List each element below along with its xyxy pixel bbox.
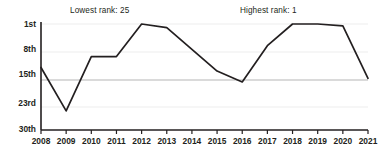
x-axis-tick-label: 2008 xyxy=(32,137,51,145)
x-axis-tick-label: 2017 xyxy=(258,137,277,145)
x-axis-tick-label: 2014 xyxy=(183,137,202,145)
rank-line-chart: Lowest rank: 25 Highest rank: 1 1st8th15… xyxy=(0,0,382,150)
x-axis-labels: 2008200920102011201220132014201520162017… xyxy=(0,0,382,150)
x-axis-tick-label: 2015 xyxy=(208,137,227,145)
x-axis-tick-label: 2016 xyxy=(233,137,252,145)
x-axis-tick-label: 2019 xyxy=(308,137,327,145)
x-axis-tick-label: 2020 xyxy=(334,137,353,145)
x-axis-tick-label: 2021 xyxy=(359,137,378,145)
x-axis-tick-label: 2013 xyxy=(157,137,176,145)
x-axis-tick-label: 2018 xyxy=(283,137,302,145)
x-axis-tick-label: 2012 xyxy=(132,137,151,145)
x-axis-tick-label: 2011 xyxy=(107,137,125,145)
x-axis-tick-label: 2009 xyxy=(57,137,76,145)
x-axis-tick-label: 2010 xyxy=(82,137,101,145)
